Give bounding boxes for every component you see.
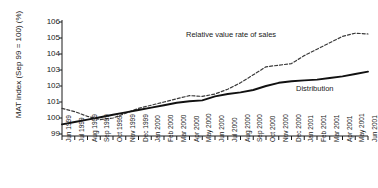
x-axis-tick-label: Aug 1999 (91, 114, 98, 142)
x-axis-tick-label: Apr 2001 (346, 116, 353, 142)
x-axis-tick-label: Oct 1999 (116, 116, 123, 142)
x-axis-tick-label: Dec 1999 (142, 114, 149, 142)
data-series-group (62, 33, 368, 124)
x-axis-tick-label: Dec 2000 (295, 114, 302, 142)
x-axis-tick-label: Jan 2001 (307, 115, 314, 142)
series-line-relative-value-rate-of-sales (62, 33, 368, 119)
x-axis-tick-label: Sep 2000 (256, 114, 263, 142)
x-axis-tick-label: Feb 2000 (167, 115, 174, 142)
x-axis-tick-label: Jan 2000 (154, 115, 161, 142)
x-axis-tick-label: Mar 2000 (180, 115, 187, 142)
x-axis-tick-label: May 2000 (205, 113, 212, 142)
x-axis-tick-label: May 2001 (358, 113, 365, 142)
x-axis-tick-label: Apr 2000 (193, 116, 200, 142)
x-axis-tick-label: Jul 1999 (78, 117, 85, 142)
x-axis-tick-label: Nov 1999 (129, 114, 136, 142)
x-axis-tick-label: Aug 2000 (244, 114, 251, 142)
series-annotation-distribution: Distribution (296, 84, 334, 93)
x-axis-tick-label: Mar 2001 (333, 115, 340, 142)
x-axis-tick-label: Sep 1999 (103, 114, 110, 142)
x-axis-tick-label: Jul 2000 (231, 117, 238, 142)
x-axis-tick-label: Jun 2000 (218, 115, 225, 142)
series-annotation-relative-value-rate-of-sales: Relative value rate of sales (186, 30, 276, 39)
x-axis-tick-label: Oct 2000 (269, 116, 276, 142)
x-axis-tick-label: Feb 2001 (320, 115, 327, 142)
x-axis-tick-label: Jun 2001 (371, 115, 378, 142)
x-axis-tick-label: Nov 2000 (282, 114, 289, 142)
x-axis-tick-label: Jun 1999 (65, 115, 72, 142)
